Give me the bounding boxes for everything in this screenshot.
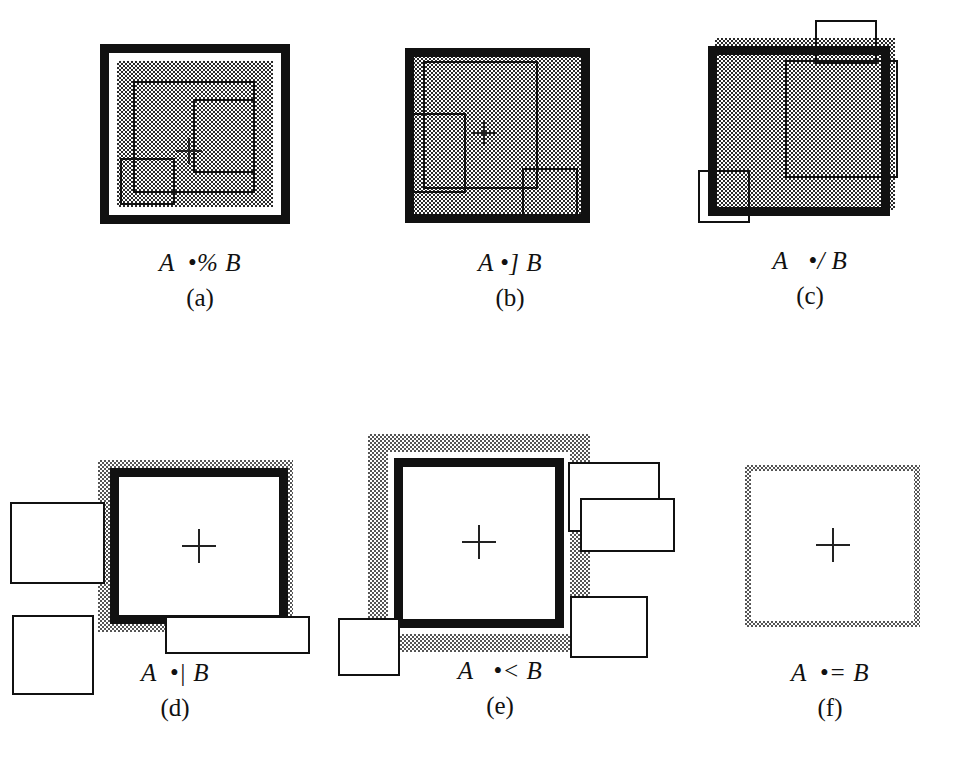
panel-c-caption: A •/ B (c) (670, 248, 950, 310)
inner-rect-bottom-left (120, 158, 175, 205)
panel-e-expression: A •< B (330, 658, 670, 684)
inner-rect-large (785, 60, 898, 178)
panel-c-artwork (670, 20, 950, 235)
panel-d-caption: A •| B (d) (10, 660, 340, 722)
panel-f-artwork (690, 440, 957, 655)
panel-d-expression: A •| B (10, 660, 340, 686)
centroid-cross-icon (182, 529, 216, 563)
overlap-rect-bottom (165, 616, 310, 654)
centroid-cross-icon (471, 120, 497, 146)
panel-a-caption: A •% B (a) (60, 250, 340, 312)
panel-c: A •/ B (c) (670, 20, 950, 330)
panel-b-expression: A •] B (370, 250, 650, 276)
panel-a-index: (a) (60, 285, 340, 311)
overlap-rect-right-lower (570, 596, 648, 658)
overlap-rect-top (815, 20, 877, 64)
panel-f-expression: A •= B (690, 660, 957, 686)
centroid-cross-icon (176, 138, 202, 164)
centroid-cross-icon (462, 525, 496, 559)
panel-b-index: (b) (370, 285, 650, 311)
panel-b: A •] B (b) (370, 28, 650, 328)
panel-c-index: (c) (670, 283, 950, 309)
panel-e-artwork (330, 420, 670, 660)
panel-a-expression: A •% B (60, 250, 340, 276)
overlap-rect-bottom-left (698, 170, 750, 223)
panel-d-index: (d) (10, 695, 340, 721)
panel-b-caption: A •] B (b) (370, 250, 650, 312)
panel-f-caption: A •= B (f) (690, 660, 957, 722)
centroid-cross-icon (816, 528, 850, 562)
inner-rect-left (405, 113, 466, 193)
inner-rect-bottom-right (522, 168, 578, 223)
panel-e-caption: A •< B (e) (330, 658, 670, 720)
inner-rect-right (193, 99, 255, 173)
panel-e: A •< B (e) (330, 420, 670, 730)
figure-root: A •% B (a) A •] B (b) (0, 0, 957, 771)
panel-d-artwork (10, 440, 340, 655)
panel-b-artwork (370, 28, 650, 228)
panel-e-index: (e) (330, 693, 670, 719)
panel-f-index: (f) (690, 695, 957, 721)
panel-c-expression: A •/ B (670, 248, 950, 274)
overlap-rect-right-middle (580, 498, 675, 552)
panel-a: A •% B (a) (60, 28, 340, 328)
panel-a-artwork (60, 28, 340, 228)
panel-f: A •= B (f) (690, 440, 957, 730)
panel-d: A •| B (d) (10, 440, 340, 730)
overlap-rect-left-upper (10, 502, 105, 584)
